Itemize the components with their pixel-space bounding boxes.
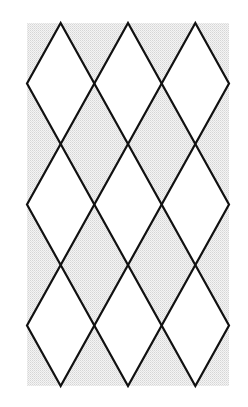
- diamond-lattice-diagram: [0, 0, 248, 407]
- lattice-canvas: [0, 0, 248, 407]
- white-diamonds: [27, 23, 229, 386]
